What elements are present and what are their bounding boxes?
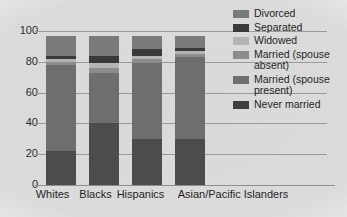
bar-segment-married-spouse-present[interactable] (89, 73, 119, 124)
legend-label-divorced: Divorced (254, 8, 295, 20)
bar-segment-married-spouse-absent[interactable] (175, 54, 205, 57)
legend-label-married-spouse-present: Married (spouse present) (254, 74, 330, 97)
bar-segment-never-married[interactable] (89, 123, 119, 185)
legend-label-separated: Separated (254, 22, 302, 34)
bar-segment-widowed[interactable] (46, 59, 76, 62)
legend-swatch-separated (233, 24, 249, 32)
legend-swatch-widowed (233, 37, 249, 45)
legend-item-widowed[interactable]: Widowed (233, 35, 345, 47)
bar-segment-divorced[interactable] (175, 36, 205, 48)
bar-asian-pacific-islanders[interactable] (175, 36, 205, 185)
bar-segment-married-spouse-absent[interactable] (89, 68, 119, 73)
y-tick-label-60: 60 (4, 87, 38, 98)
axis-baseline (35, 185, 335, 186)
legend-item-married-spouse-absent[interactable]: Married (spouse absent) (233, 49, 345, 72)
y-tick-label-80: 80 (4, 56, 38, 67)
legend-item-divorced[interactable]: Divorced (233, 8, 345, 20)
y-axis: 100 80 60 40 20 0 (0, 31, 38, 185)
legend-swatch-married-spouse-absent (233, 51, 249, 59)
bar-segment-divorced[interactable] (46, 36, 76, 56)
legend-item-married-spouse-present[interactable]: Married (spouse present) (233, 74, 345, 97)
y-tick-label-20: 20 (4, 148, 38, 159)
x-tick-label-asian-pacific-islanders: Asian/Pacific Islanders (168, 188, 298, 200)
bar-hispanics[interactable] (132, 36, 162, 185)
bar-segment-never-married[interactable] (132, 139, 162, 185)
bar-segment-divorced[interactable] (132, 36, 162, 50)
legend-label-widowed: Widowed (254, 35, 297, 47)
chart-figure: 100 80 60 40 20 0 Whites Blacks Hispanic… (0, 0, 347, 217)
bar-segment-separated[interactable] (132, 49, 162, 55)
legend-swatch-divorced (233, 10, 249, 18)
bar-segment-divorced[interactable] (89, 36, 119, 56)
legend-label-never-married: Never married (254, 99, 321, 111)
legend: Divorced Separated Widowed Married (spou… (233, 8, 345, 112)
legend-item-separated[interactable]: Separated (233, 22, 345, 34)
y-tick-label-100: 100 (4, 25, 38, 36)
bar-segment-widowed[interactable] (175, 51, 205, 54)
x-tick-label-hispanics: Hispanics (112, 188, 169, 200)
bar-segment-married-spouse-present[interactable] (175, 57, 205, 139)
bar-segment-widowed[interactable] (89, 63, 119, 68)
legend-swatch-never-married (233, 101, 249, 109)
y-tick-label-40: 40 (4, 117, 38, 128)
bar-whites[interactable] (46, 36, 76, 185)
bar-segment-married-spouse-present[interactable] (132, 63, 162, 138)
bar-segment-married-spouse-present[interactable] (46, 65, 76, 151)
bar-segment-separated[interactable] (46, 56, 76, 59)
bar-segment-never-married[interactable] (175, 139, 205, 185)
bar-segment-married-spouse-absent[interactable] (132, 59, 162, 64)
x-tick-label-whites: Whites (30, 188, 75, 200)
bar-segment-separated[interactable] (89, 56, 119, 64)
legend-item-never-married[interactable]: Never married (233, 99, 345, 111)
bar-segment-never-married[interactable] (46, 151, 76, 185)
bar-segment-married-spouse-absent[interactable] (46, 62, 76, 65)
bar-segment-separated[interactable] (175, 48, 205, 51)
bar-segment-widowed[interactable] (132, 56, 162, 59)
legend-label-married-spouse-absent: Married (spouse absent) (254, 49, 330, 72)
plot-area (43, 31, 221, 185)
bar-blacks[interactable] (89, 36, 119, 185)
legend-swatch-married-spouse-present (233, 76, 249, 84)
